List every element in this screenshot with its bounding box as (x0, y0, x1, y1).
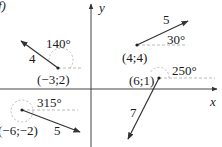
panel-label: f) (0, 0, 6, 13)
vector-diagram: y x f) 140° 4 (−3;2) 5 30° (4;4) 250° (6… (0, 0, 222, 147)
x-axis-label: x (209, 94, 216, 109)
point-label: (−3;2) (37, 72, 70, 87)
magnitude-label: 5 (54, 123, 61, 138)
magnitude-label: 5 (163, 12, 170, 27)
point-label: (4;4) (122, 50, 147, 65)
vector-2: 5 30° (4;4) (122, 12, 188, 65)
point-label: (−6;−2) (0, 123, 38, 138)
point-label: (6;1) (129, 73, 154, 88)
angle-label: 315° (37, 95, 62, 110)
magnitude-label: 4 (29, 51, 36, 66)
angle-label: 250° (172, 63, 197, 78)
vector-1: 140° 4 (−3;2) (21, 36, 82, 87)
vector-3: 250° (6;1) 7 (128, 63, 215, 139)
magnitude-label: 7 (130, 105, 137, 120)
y-axis-label: y (97, 0, 105, 15)
angle-label: 140° (46, 36, 71, 51)
vector-4: 315° (−6;−2) 5 (0, 95, 80, 138)
angle-label: 30° (167, 32, 185, 47)
